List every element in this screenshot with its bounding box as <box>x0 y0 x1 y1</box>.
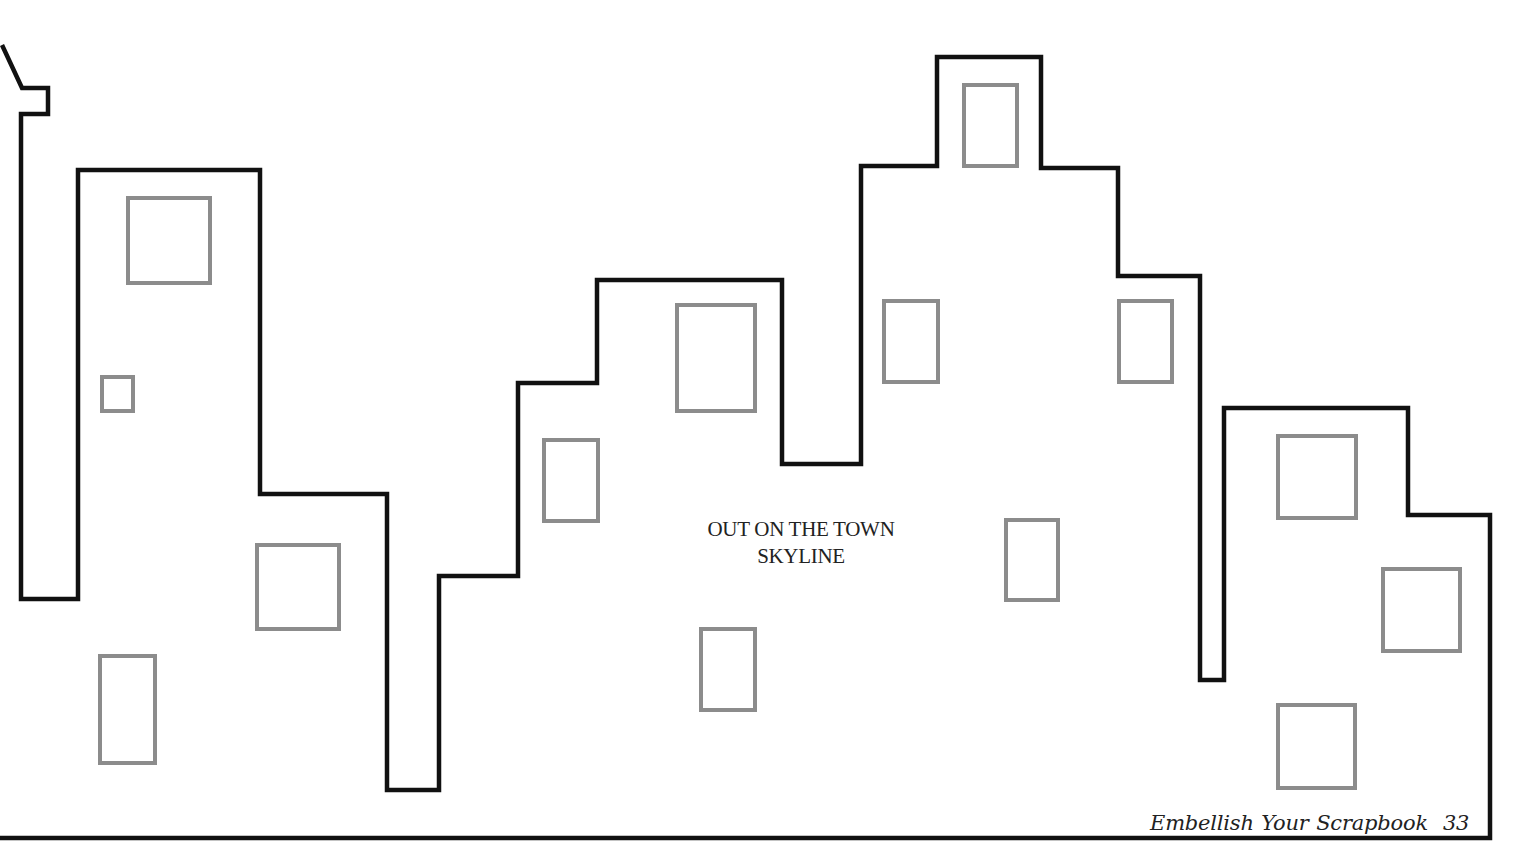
page-footer: Embellish Your Scrapbook 33 <box>1150 811 1470 835</box>
window <box>1278 436 1356 518</box>
book-title: Embellish Your Scrapbook <box>1150 811 1428 835</box>
window <box>701 629 755 710</box>
window <box>1383 569 1460 651</box>
window <box>884 301 938 382</box>
window <box>1006 520 1058 600</box>
title-line-1: OUT ON THE TOWN <box>690 516 912 543</box>
window <box>544 440 598 521</box>
window <box>964 85 1017 166</box>
window <box>1278 705 1355 788</box>
window <box>128 198 210 283</box>
skyline-outline <box>0 45 1490 838</box>
window <box>100 656 155 763</box>
page-number: 33 <box>1443 811 1469 835</box>
window <box>1119 301 1172 382</box>
window <box>102 377 133 411</box>
skyline-illustration <box>0 0 1522 855</box>
title-line-2: SKYLINE <box>690 543 912 570</box>
template-page: OUT ON THE TOWN SKYLINE Embellish Your S… <box>0 0 1522 855</box>
window <box>677 305 755 411</box>
template-title: OUT ON THE TOWN SKYLINE <box>690 516 912 570</box>
window <box>257 545 339 629</box>
